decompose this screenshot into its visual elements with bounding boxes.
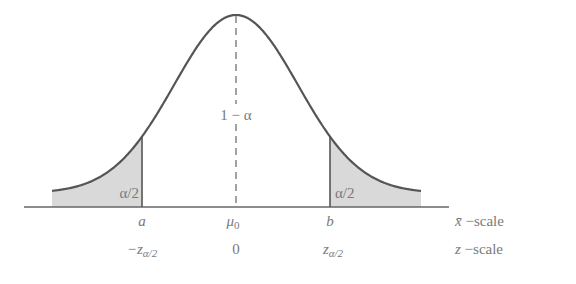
z-label-right: zα/2 [322, 241, 344, 259]
z-label-left: −zα/2 [127, 241, 158, 259]
center-area-label: 1 − α [220, 107, 251, 123]
right-tail-label: α/2 [335, 185, 355, 201]
tick-label-b: b [326, 213, 334, 229]
z-label-center: 0 [232, 241, 240, 257]
tick-label-a: a [138, 213, 146, 229]
xbar-scale-label: x̄ −scale [454, 213, 504, 229]
z-scale-label: z −scale [454, 241, 503, 257]
normal-curve-diagram: 1 − α α/2 α/2 a μ0 b −zα/2 0 zα/2 x̄ −sc… [0, 0, 576, 284]
tick-label-mu0: μ0 [225, 213, 240, 231]
left-tail-label: α/2 [119, 185, 139, 201]
